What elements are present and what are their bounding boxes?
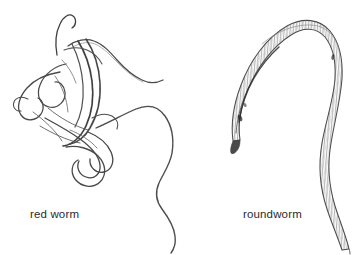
caption-roundworm: roundworm <box>243 207 302 221</box>
roundworm-tail-tip <box>349 249 350 254</box>
red-worm-inner-strand-6 <box>62 60 76 83</box>
red-worm-tail-strand-texture <box>96 106 175 253</box>
red-worm-tail-strand <box>96 106 175 253</box>
red-worm-strand-right-short <box>92 114 118 129</box>
caption-red-worm: red worm <box>30 207 79 221</box>
red-worm-coil-central-c <box>72 44 83 127</box>
red-worm-inner-strand-3 <box>33 112 62 141</box>
roundworm-head-tip <box>231 140 240 154</box>
red-worm-loop-bottom <box>66 146 105 186</box>
red-worm-nub-left <box>13 97 28 111</box>
red-worm-loop-mid-left <box>38 64 66 107</box>
